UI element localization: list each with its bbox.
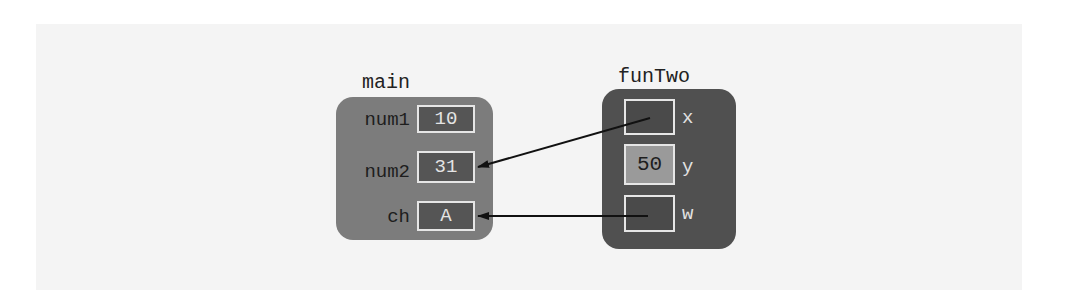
arrow-x-to-num2 [478, 118, 650, 167]
pointer-arrows [0, 0, 1068, 297]
